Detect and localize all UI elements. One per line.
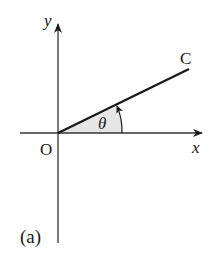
x-axis-label: x [191, 138, 200, 157]
angle-diagram: y x O C θ (a) [0, 0, 221, 258]
y-axis-label: y [42, 11, 52, 30]
angle-theta-label: θ [98, 114, 106, 133]
ray-oc [58, 69, 189, 133]
origin-label: O [40, 140, 52, 159]
panel-label: (a) [20, 226, 41, 248]
point-c-label: C [180, 49, 191, 68]
